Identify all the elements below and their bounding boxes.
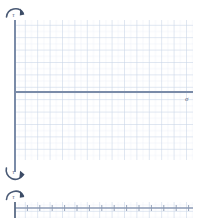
tau-rotation-arrow-top: τ	[7, 9, 25, 18]
tau-label-second: τ	[12, 193, 15, 200]
sigma-axis-label: σ	[185, 95, 189, 103]
figure-canvas: σ τ τ τ	[0, 0, 201, 218]
arrowhead-icon	[20, 9, 25, 16]
arrowhead-icon	[20, 191, 25, 198]
grid-region	[15, 20, 193, 160]
tau-label-top: τ	[12, 11, 15, 18]
second-figure-group: τ	[7, 191, 194, 218]
arrowhead-icon	[19, 171, 24, 179]
mohr-circle-figure: σ τ τ τ	[0, 0, 201, 218]
second-figure-grid	[15, 202, 193, 218]
tau-rotation-arrow-second-figure: τ	[7, 191, 25, 200]
